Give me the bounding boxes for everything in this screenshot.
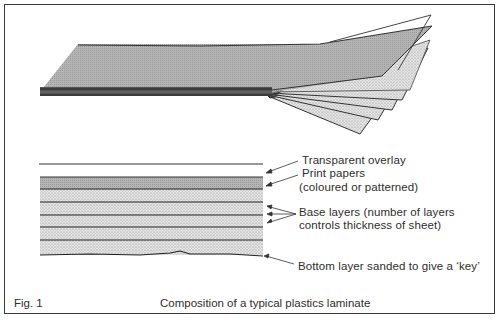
figure-caption: Composition of a typical plastics lamina… — [160, 297, 370, 310]
label-transparent-overlay: Transparent overlay — [302, 154, 406, 167]
label-base-layers-2: controls thickness of sheet) — [299, 219, 441, 232]
label-print-papers: Print papers — [302, 167, 365, 180]
label-base-layers-1: Base layers (number of layers — [299, 206, 455, 219]
label-print-papers-note: (coloured or patterned) — [299, 181, 418, 194]
laminate-illustration — [0, 0, 501, 323]
cross-section-diagram — [39, 161, 298, 264]
base-layers — [40, 189, 263, 255]
print-paper-layer — [40, 177, 263, 189]
figure-number: Fig. 1 — [14, 297, 43, 310]
fanned-laminate-sheets — [40, 15, 432, 134]
label-bottom-layer: Bottom layer sanded to give a ‘key’ — [298, 260, 480, 273]
